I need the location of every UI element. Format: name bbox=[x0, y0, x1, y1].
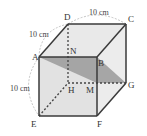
dim-label-top: 10 cm bbox=[89, 8, 110, 17]
label-F: F bbox=[97, 119, 102, 129]
cube-diagram: A D C B N H M G E F 10 cm 10 cm 10 cm bbox=[0, 0, 147, 136]
label-D: D bbox=[64, 12, 71, 22]
label-E: E bbox=[31, 119, 37, 129]
label-C: C bbox=[128, 14, 134, 24]
dim-label-left: 10 cm bbox=[10, 84, 31, 93]
label-G: G bbox=[128, 80, 135, 90]
dim-label-top-left: 10 cm bbox=[29, 30, 50, 39]
label-A: A bbox=[32, 52, 39, 62]
label-M: M bbox=[86, 85, 94, 95]
label-B: B bbox=[98, 58, 104, 68]
dim-arc-left bbox=[29, 57, 40, 116]
label-H: H bbox=[68, 85, 75, 95]
label-N: N bbox=[70, 46, 77, 56]
